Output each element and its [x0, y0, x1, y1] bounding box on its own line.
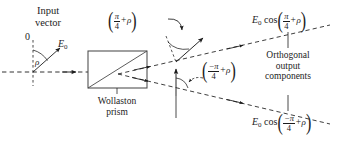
prism-caption: Wollaston prism: [98, 96, 136, 117]
input-vector-label-line1: Input: [37, 5, 59, 16]
lower-beam-angle-arc: [176, 78, 188, 88]
paren-open: (: [277, 112, 282, 135]
input-vector-label: Input vector: [35, 5, 61, 29]
output-lower-math: ( −π 4 +ρ): [277, 114, 311, 132]
amplitude-subscript: 0: [258, 121, 262, 129]
lower-angle-expression: ( −π 4 +ρ): [202, 62, 236, 80]
zero-marker-label: 0: [25, 31, 30, 42]
fraction-denominator: 4: [283, 21, 289, 31]
output-caption-line1: Orthogonal: [266, 50, 309, 60]
fraction-numerator: −π: [208, 62, 219, 71]
upper-beam-polarization-vector: [176, 38, 203, 62]
amplitude-subscript: 0: [64, 43, 68, 51]
fraction: π 4: [114, 12, 120, 30]
input-amplitude-label: E0: [58, 38, 68, 52]
prism-caption-line2: prism: [106, 107, 128, 117]
output-components-caption: Orthogonal output components: [265, 50, 311, 82]
upper-angle-callout-arrow: [168, 19, 182, 30]
output-lower-expression: E0 cos ( −π 4 +ρ): [252, 114, 311, 132]
wollaston-prism-diagram: Input vector 0 ρ E0 ( π 4 +ρ) ( −π 4 +ρ)…: [0, 0, 337, 143]
input-vector-label-line2: vector: [35, 17, 61, 28]
paren-open: (: [277, 10, 282, 33]
output-upper-expression: E0 cos ( π 4 +ρ): [252, 12, 306, 30]
upper-beam-angle-arc: [168, 42, 189, 49]
fraction-numerator: π: [114, 12, 120, 21]
fraction-numerator: π: [283, 12, 289, 21]
paren-open: (: [202, 60, 207, 83]
cos-function: cos: [264, 14, 277, 25]
fraction: π 4: [283, 12, 289, 30]
fraction-numerator: −π: [283, 114, 294, 123]
fraction: −π 4: [208, 62, 219, 80]
cos-function: cos: [264, 116, 277, 127]
fraction-denominator: 4: [114, 21, 120, 31]
paren-close: ): [301, 10, 306, 33]
paren-open: (: [108, 10, 113, 33]
fraction-denominator: 4: [208, 71, 219, 81]
output-caption-line2: output: [276, 61, 300, 71]
upper-angle-expression: ( π 4 +ρ): [108, 12, 137, 30]
prism-caption-line1: Wollaston: [98, 96, 136, 106]
lower-angle-callout-arrow: [189, 78, 203, 83]
paren-close: ): [230, 60, 235, 83]
fraction: −π 4: [283, 114, 294, 132]
lower-angle-math: ( −π 4 +ρ): [202, 62, 236, 80]
fraction-denominator: 4: [283, 123, 294, 133]
output-upper-math: ( π 4 +ρ): [277, 12, 306, 30]
upper-beam-reference-axis: [166, 36, 176, 62]
upper-angle-math: ( π 4 +ρ): [108, 12, 137, 30]
output-caption-line3: components: [265, 71, 311, 81]
amplitude-subscript: 0: [258, 19, 262, 27]
rho-angle-label: ρ: [35, 57, 39, 67]
paren-close: ): [306, 112, 311, 135]
paren-close: ): [131, 10, 136, 33]
